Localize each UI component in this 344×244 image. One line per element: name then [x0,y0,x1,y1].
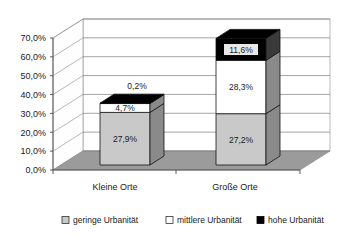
y-tick-label: 10,0% [20,146,46,156]
bar-segment-mid-side[interactable] [266,51,280,113]
legend-item-geringe-urbanitaet[interactable]: geringe Urbanität [62,215,139,225]
y-tick-label: 20,0% [20,128,46,138]
legend-label-hohe-urbanitaet: hohe Urbanität [268,215,324,225]
legend-label-geringe-urbanitaet: geringe Urbanität [73,215,139,225]
legend-swatch-hohe-urbanitaet [257,217,264,224]
legend-item-hohe-urbanitaet[interactable]: hohe Urbanität [257,215,324,225]
legend-label-mittlere-urbanitaet: mittlere Urbanität [177,215,242,225]
y-tick-label: 0,0% [25,165,46,175]
y-axis-tick-labels: 70,0% 60,0% 50,0% 40,0% 30,0% 20,0% 10,0… [20,33,46,175]
stacked-column-chart-3d: 70,0% 60,0% 50,0% 40,0% 30,0% 20,0% 10,0… [0,0,344,244]
bar-segment-label-high: 11,6% [229,45,253,55]
y-tick-label: 70,0% [20,33,46,43]
y-tick-label: 30,0% [20,109,46,119]
bar-segment-low-side[interactable] [266,105,280,165]
floor-plane [53,151,330,170]
bar-segment-label-low: 27,9% [113,134,138,144]
category-label-kleine-orte: Kleine Orte [92,182,137,192]
bar-segment-low-side[interactable] [150,103,164,165]
left-side-wall [53,19,83,170]
chart-container: 70,0% 60,0% 50,0% 40,0% 30,0% 20,0% 10,0… [0,0,344,244]
legend-swatch-mittlere-urbanitaet [166,217,173,224]
plot-3d-scene [50,19,330,174]
y-tick-label: 40,0% [20,90,46,100]
bar-segment-label-low: 27,2% [229,135,254,145]
category-label-grosse-orte: Große Orte [212,182,258,192]
bar-segment-label-mid: 4,7% [115,103,135,113]
x-axis-category-labels: Kleine Orte Große Orte [92,182,257,192]
y-tick-label: 50,0% [20,71,46,81]
bar-segment-label-high: 0,2% [127,81,147,91]
y-tick-label: 60,0% [20,52,46,62]
bar-segment-label-mid: 28,3% [229,82,254,92]
x-axis-ticks [53,170,300,174]
legend: geringe Urbanität mittlere Urbanität hoh… [62,215,324,225]
legend-item-mittlere-urbanitaet[interactable]: mittlere Urbanität [166,215,242,225]
bar-group-grosse-orte[interactable]: 27,2% 28,3% 11,6% [216,29,280,165]
legend-swatch-geringe-urbanitaet [62,217,69,224]
